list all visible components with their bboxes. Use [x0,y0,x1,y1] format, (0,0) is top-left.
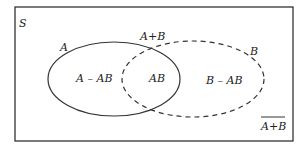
region-a-only: A – AB [75,72,112,85]
venn-diagram: S A A+B B A – AB AB B – AB A+B [0,0,307,147]
set-a-label: A [59,41,68,54]
set-b-ellipse [122,41,264,117]
region-b-only: B – AB [205,74,243,87]
region-intersection: AB [148,72,165,85]
set-b-label: B [249,45,258,58]
complement-label: A+B [260,120,286,133]
universe-label: S [19,17,27,30]
union-label: A+B [139,30,165,43]
